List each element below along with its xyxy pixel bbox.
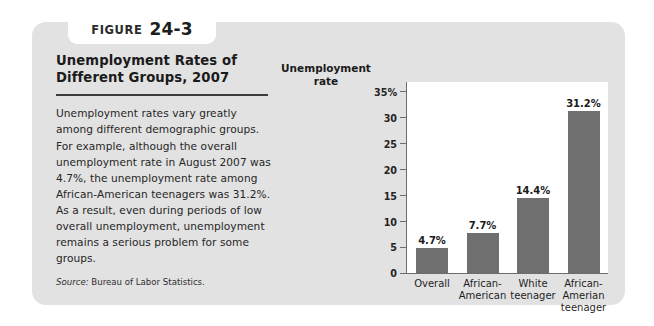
category-label-line: teenager bbox=[556, 302, 612, 314]
figure-title: Unemployment Rates of Different Groups, … bbox=[56, 52, 274, 86]
category-label-line: Amerian bbox=[556, 290, 612, 302]
figure-card: Figure 24-3 Unemployment Rates of Differ… bbox=[32, 22, 625, 305]
y-axis-tick: 35% bbox=[400, 91, 407, 92]
y-axis-tick-label: 0 bbox=[390, 268, 397, 279]
y-axis-tick: 30 bbox=[400, 117, 407, 118]
bar[interactable]: 7.7% bbox=[467, 233, 499, 273]
y-axis-tick-label: 35% bbox=[374, 86, 397, 97]
y-axis-tick: 15 bbox=[400, 195, 407, 196]
y-axis-tick-label: 25 bbox=[384, 138, 397, 149]
category-label-line: White bbox=[505, 278, 561, 290]
figure-text-column: Unemployment Rates of Different Groups, … bbox=[56, 52, 274, 297]
y-axis-tick-label: 20 bbox=[384, 164, 397, 175]
category-label-line: American bbox=[455, 290, 511, 302]
category-label-line: African- bbox=[556, 278, 612, 290]
x-axis-category-label: African-Amerianteenager bbox=[556, 278, 612, 315]
x-axis-category-label: Whiteteenager bbox=[505, 278, 561, 302]
source-text: Bureau of Labor Statistics. bbox=[91, 277, 204, 287]
bar-slot: 4.7% bbox=[407, 82, 457, 273]
y-axis-tick-label: 10 bbox=[384, 216, 397, 227]
figure-description: Unemployment rates vary greatly among di… bbox=[56, 105, 274, 266]
figure-tab-number: 24-3 bbox=[149, 19, 192, 39]
y-axis-tick: 5 bbox=[400, 247, 407, 248]
y-axis-tick: 10 bbox=[400, 221, 407, 222]
y-axis-title-line-2: rate bbox=[280, 75, 372, 88]
bar-slot: 7.7% bbox=[458, 82, 508, 273]
x-axis-category-label: African-American bbox=[455, 278, 511, 302]
y-axis-tick-label: 15 bbox=[384, 190, 397, 201]
y-axis-tick: 25 bbox=[400, 143, 407, 144]
x-axis-category-labels: OverallAfrican-AmericanWhiteteenagerAfri… bbox=[407, 278, 609, 326]
x-axis-category-label: Overall bbox=[404, 278, 460, 290]
y-axis-tick: 0 bbox=[400, 273, 407, 274]
bar-value-label: 31.2% bbox=[566, 98, 601, 109]
bar[interactable]: 31.2% bbox=[568, 111, 600, 273]
bar-value-label: 14.4% bbox=[516, 185, 551, 196]
bar[interactable]: 4.7% bbox=[416, 248, 448, 272]
bar[interactable]: 14.4% bbox=[517, 198, 549, 273]
figure-source: Source: Bureau of Labor Statistics. bbox=[56, 277, 274, 288]
title-divider bbox=[56, 94, 268, 96]
figure-number-tab: Figure 24-3 bbox=[68, 14, 216, 44]
bar-value-label: 4.7% bbox=[418, 235, 446, 246]
bar-series: 4.7%7.7%14.4%31.2% bbox=[407, 82, 608, 273]
bar-value-label: 7.7% bbox=[469, 220, 497, 231]
category-label-line: Overall bbox=[404, 278, 460, 290]
source-label: Source: bbox=[56, 277, 89, 287]
y-axis-title-line-1: Unemployment bbox=[280, 62, 372, 75]
category-label-line: African- bbox=[455, 278, 511, 290]
bar-slot: 14.4% bbox=[508, 82, 558, 273]
y-axis-tick: 20 bbox=[400, 169, 407, 170]
x-axis-line bbox=[406, 273, 608, 274]
y-axis-title: Unemployment rate bbox=[280, 62, 372, 88]
bar-slot: 31.2% bbox=[559, 82, 609, 273]
y-axis-tick-label: 30 bbox=[384, 112, 397, 123]
bar-chart: Unemployment rate 05101520253035% 4.7%7.… bbox=[280, 40, 616, 302]
category-label-line: teenager bbox=[505, 290, 561, 302]
plot-area-wrapper: 05101520253035% 4.7%7.7%14.4%31.2% bbox=[376, 82, 608, 274]
figure-tab-word: Figure bbox=[91, 23, 142, 37]
y-axis-tick-label: 5 bbox=[390, 242, 397, 253]
